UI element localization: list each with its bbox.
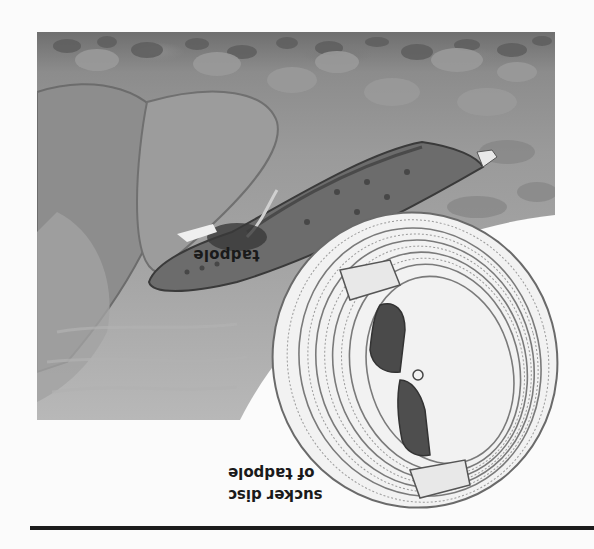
caption-line-2: of tadpole <box>228 462 328 484</box>
tadpole-label: tadpole <box>193 246 260 264</box>
sucker-disc-caption: sucker disc of tadpole <box>228 462 328 506</box>
caption-line-1: sucker disc <box>228 484 328 506</box>
page-rule-divider <box>30 526 594 530</box>
